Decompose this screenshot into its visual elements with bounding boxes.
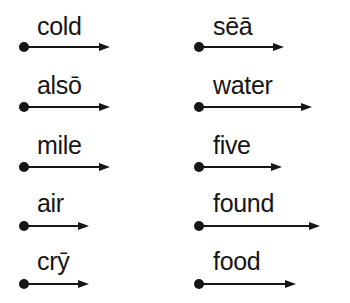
arrow-line (24, 106, 100, 108)
word-label: food (213, 249, 260, 274)
word-label: sēā (213, 14, 252, 39)
start-arrow (19, 102, 111, 112)
arrow-head-icon (99, 43, 110, 51)
arrow-head-icon (273, 43, 284, 51)
arrow-line (199, 283, 286, 285)
start-arrow (194, 162, 283, 172)
arrow-head-icon (285, 280, 296, 288)
start-arrow (194, 279, 297, 289)
arrow-line (199, 225, 310, 227)
arrow-line (199, 46, 274, 48)
arrow-head-icon (301, 103, 312, 111)
start-arrow (19, 42, 111, 52)
word-label: cold (37, 14, 82, 39)
arrow-line (24, 225, 79, 227)
arrow-line (24, 166, 100, 168)
word-label: five (213, 133, 251, 158)
word-label: alsō (37, 73, 82, 98)
start-arrow (19, 162, 111, 172)
start-arrow (194, 102, 313, 112)
arrow-line (24, 283, 79, 285)
arrow-head-icon (99, 163, 110, 171)
start-arrow (19, 221, 90, 231)
word-label: found (213, 191, 274, 216)
arrow-line (199, 106, 302, 108)
arrow-line (199, 166, 272, 168)
word-label: water (213, 73, 273, 98)
word-label: crȳ (37, 249, 69, 274)
start-arrow (194, 221, 321, 231)
arrow-line (24, 46, 100, 48)
arrow-head-icon (78, 222, 89, 230)
arrow-head-icon (271, 163, 282, 171)
start-arrow (19, 279, 90, 289)
arrow-head-icon (309, 222, 320, 230)
word-label: air (37, 191, 64, 216)
start-arrow (194, 42, 285, 52)
arrow-head-icon (99, 103, 110, 111)
word-label: mile (37, 133, 82, 158)
arrow-head-icon (78, 280, 89, 288)
